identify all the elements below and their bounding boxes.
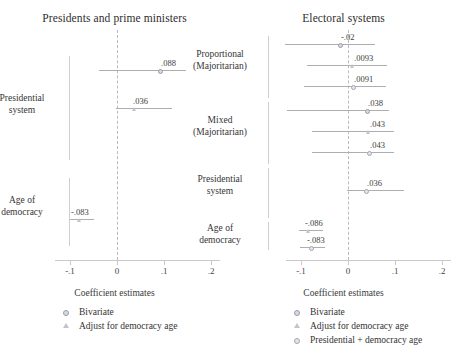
x-tick-label: .1 (380, 266, 410, 276)
category-bracket-proportional-right (268, 36, 269, 98)
x-tick-label: 0 (102, 266, 132, 276)
category-bracket-presidential-system-left (69, 56, 70, 160)
bivariate-marker-icon (63, 310, 69, 316)
confidence-interval-line (312, 131, 394, 132)
estimate-value-label: .043 (370, 140, 385, 150)
confidence-interval-line (70, 219, 94, 220)
category-label-line1: Age of (207, 223, 233, 233)
x-tick-label: -.1 (55, 266, 85, 276)
category-label-line1: Mixed (208, 115, 233, 125)
category-label-line1: Presidential (198, 174, 243, 184)
confidence-interval-line (307, 65, 387, 66)
confidence-interval-line (347, 190, 404, 191)
estimate-value-label: .036 (367, 178, 382, 188)
legend-label: Presidential + democracy age (310, 335, 422, 345)
x-tick (70, 261, 71, 265)
legend-item: Adjust for democracy age (288, 319, 422, 333)
category-label-line1: Proportional (196, 49, 244, 59)
presidential-marker-icon (294, 338, 300, 344)
category-label-age-of-democracy-right: Age of democracy (174, 222, 266, 246)
estimate-value-label: .0091 (354, 74, 373, 84)
legend-label: Bivariate (79, 307, 114, 317)
adjusted-marker-icon (294, 323, 300, 328)
category-label-presidential-right: Presidential system (174, 173, 266, 197)
x-axis-left (55, 260, 220, 261)
panel-title-right: Electoral systems (229, 12, 458, 24)
legend-item: Adjust for democracy age (57, 319, 177, 333)
estimate-marker-presidential (364, 189, 369, 194)
estimate-value-label: .036 (133, 96, 148, 106)
estimate-value-label: -.083 (307, 235, 325, 245)
x-tick (117, 261, 118, 265)
zero-reference-line-left (117, 30, 118, 260)
category-label-line2: system (207, 186, 233, 196)
confidence-interval-line (116, 108, 172, 109)
estimate-value-label: .043 (370, 119, 385, 129)
estimate-marker-bivariate (338, 43, 343, 48)
estimate-value-label: -.086 (305, 218, 323, 228)
category-bracket-age-of-democracy-left (69, 178, 70, 246)
category-label-age-of-democracy-left: Age of democracy (0, 194, 68, 218)
x-axis-title-left: Coefficient estimates (0, 288, 229, 298)
x-axis-title-right: Coefficient estimates (229, 288, 458, 298)
estimate-marker-presidential (367, 151, 372, 156)
category-bracket-mixed-right (268, 102, 269, 164)
legend-item: Bivariate (57, 305, 177, 319)
x-tick (442, 261, 443, 265)
estimate-marker-bivariate (365, 109, 370, 114)
estimate-marker-presidential (309, 246, 314, 251)
adjusted-marker-icon (63, 323, 69, 328)
legend-right: Bivariate Adjust for democracy age Presi… (288, 305, 422, 347)
x-tick (348, 261, 349, 265)
legend-left: Bivariate Adjust for democracy age (57, 305, 177, 333)
confidence-interval-line (285, 44, 375, 45)
x-tick (395, 261, 396, 265)
category-label-line1: Age of (9, 195, 35, 205)
estimate-marker-bivariate (158, 69, 163, 74)
bivariate-marker-icon (294, 310, 300, 316)
estimate-marker-adjusted (366, 130, 370, 134)
confidence-interval-line (312, 152, 394, 153)
legend-item: Presidential + democracy age (288, 333, 422, 347)
estimate-marker-adjusted (306, 229, 310, 233)
chart-panel-electoral-systems: Electoral systems Proportional (Majorita… (229, 0, 458, 355)
category-label-line2: (Majoritarian) (193, 127, 247, 137)
estimate-marker-presidential (351, 85, 356, 90)
legend-item: Bivariate (288, 305, 422, 319)
estimate-marker-adjusted (132, 107, 136, 111)
confidence-interval-line (287, 110, 389, 111)
estimate-value-label: .0093 (354, 53, 373, 63)
confidence-interval-line (99, 70, 186, 71)
category-bracket-presidential-right (268, 168, 269, 218)
category-label-line2: democracy (199, 235, 241, 245)
category-label-line2: democracy (1, 207, 43, 217)
x-tick-label: -.1 (286, 266, 316, 276)
legend-label: Adjust for democracy age (79, 321, 177, 331)
x-tick (164, 261, 165, 265)
panel-title-left: Presidents and prime ministers (0, 12, 229, 24)
category-label-line1: Presidential (0, 93, 44, 103)
x-tick-label: .2 (427, 266, 457, 276)
estimate-value-label: .038 (368, 98, 383, 108)
x-tick (211, 261, 212, 265)
category-label-proportional-right: Proportional (Majoritarian) (174, 48, 266, 72)
legend-label: Adjust for democracy age (310, 321, 408, 331)
estimate-value-label: -.083 (71, 207, 89, 217)
estimate-value-label: -.02 (341, 32, 354, 42)
x-tick (301, 261, 302, 265)
x-axis-right (286, 260, 451, 261)
plot-area-right: Proportional (Majoritarian) Mixed (Major… (229, 30, 458, 260)
estimate-marker-adjusted (350, 64, 354, 68)
confidence-interval-line (299, 230, 323, 231)
x-tick-label: .1 (149, 266, 179, 276)
category-label-line2: system (9, 105, 35, 115)
category-label-presidential-system-left: Presidential system (0, 92, 68, 116)
category-bracket-age-of-democracy-right (268, 222, 269, 250)
legend-label: Bivariate (310, 307, 345, 317)
x-tick-label: .2 (196, 266, 226, 276)
estimate-marker-adjusted (77, 218, 81, 222)
category-label-line2: (Majoritarian) (193, 61, 247, 71)
x-tick-label: 0 (333, 266, 363, 276)
confidence-interval-line (304, 86, 386, 87)
category-label-mixed-right: Mixed (Majoritarian) (174, 114, 266, 138)
